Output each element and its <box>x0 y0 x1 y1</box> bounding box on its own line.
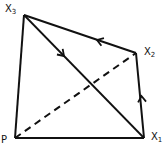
label-subscript: 2 <box>151 51 155 59</box>
diagram-canvas: X3 X2 X1 P <box>0 0 166 149</box>
edge-x1-x2 <box>136 53 144 138</box>
diagram-svg <box>0 0 166 149</box>
edge-x3-x1 <box>24 15 144 138</box>
vertex-label-x3: X3 <box>5 4 16 16</box>
edge-p-x3 <box>15 15 24 138</box>
vertex-label-p: P <box>1 135 7 145</box>
edge-p-x2-dashed <box>15 53 136 138</box>
label-text: P <box>1 134 7 145</box>
label-text: X <box>151 131 158 142</box>
label-text: X <box>144 46 151 57</box>
edge-x2-x3 <box>24 15 136 53</box>
label-subscript: 1 <box>158 136 162 144</box>
label-subscript: 3 <box>12 8 16 16</box>
label-text: X <box>5 3 12 14</box>
arrow-icon-x1-to-x2 <box>138 96 147 103</box>
vertex-label-x1: X1 <box>151 132 162 144</box>
vertex-label-x2: X2 <box>144 47 155 59</box>
